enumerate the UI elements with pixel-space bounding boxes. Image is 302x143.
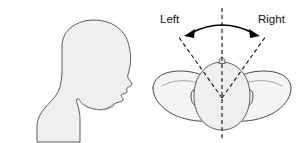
head-superior-view: Left Right <box>153 8 291 140</box>
right-arrow-head <box>249 29 260 38</box>
left-arrow-head <box>184 29 195 38</box>
label-right: Right <box>258 13 286 25</box>
label-left: Left <box>160 13 180 25</box>
figure-root: Left Right <box>0 0 302 143</box>
anatomical-figure: Left Right <box>0 0 302 143</box>
head-profile-lateral-view <box>37 20 132 142</box>
head-profile-outline <box>37 20 132 142</box>
